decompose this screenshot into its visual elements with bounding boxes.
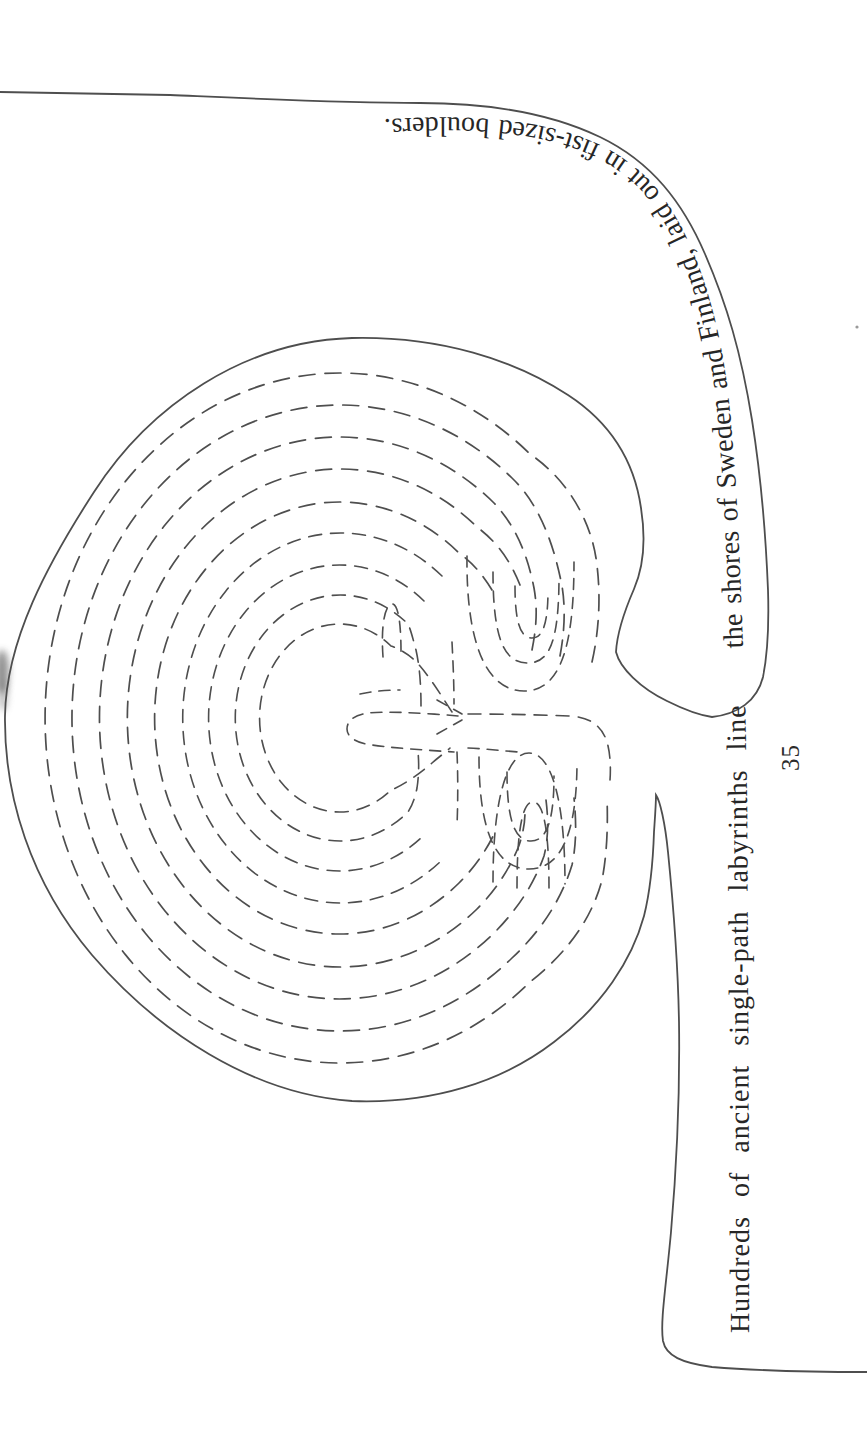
ring-1 [45,373,607,1063]
lower-turn-lobe [457,752,577,888]
caption-text-lower: Hundreds of ancient single-path labyrint… [720,704,755,1333]
scanned-book-page: Hundreds of ancient single-path labyrint… [0,0,867,1447]
upper-lobe-channel [452,642,454,704]
center-pinch-b [437,720,462,734]
upper-lobe-u2 [493,572,559,663]
caption-lower-textpath: Hundreds of ancient single-path labyrint… [720,704,755,1333]
page-number: 35 [777,744,804,771]
ring-6 [183,533,442,903]
entrance-channel-top-wall [468,714,610,780]
center-tick [360,690,400,694]
lower-lobe-u2 [493,753,565,884]
labyrinth-figure: Hundreds of ancient single-path labyrint… [0,0,867,1447]
lower-lobe-channel [457,752,458,826]
ring-3 [99,437,547,999]
caption-text-upper: the shores of Sweden and Finland, laid o… [383,111,749,649]
labyrinth-dashed-rings [45,373,607,1063]
upper-lobe-u3 [515,586,548,638]
labyrinth-center [347,604,462,752]
ring-2 [72,405,576,1031]
ring-8 [235,595,421,841]
entrance-channel [468,714,610,780]
ring-5 [155,502,496,934]
lower-lobe-u4 [517,802,549,888]
upper-turn-lobe [452,556,574,704]
center-fold [382,604,401,657]
entrance-channel-bottom-wall [468,748,518,752]
ring-9 [260,624,452,812]
scan-speck [855,325,858,328]
ring-4 [127,469,525,967]
caption-upper-textpath: the shores of Sweden and Finland, laid o… [383,111,749,649]
